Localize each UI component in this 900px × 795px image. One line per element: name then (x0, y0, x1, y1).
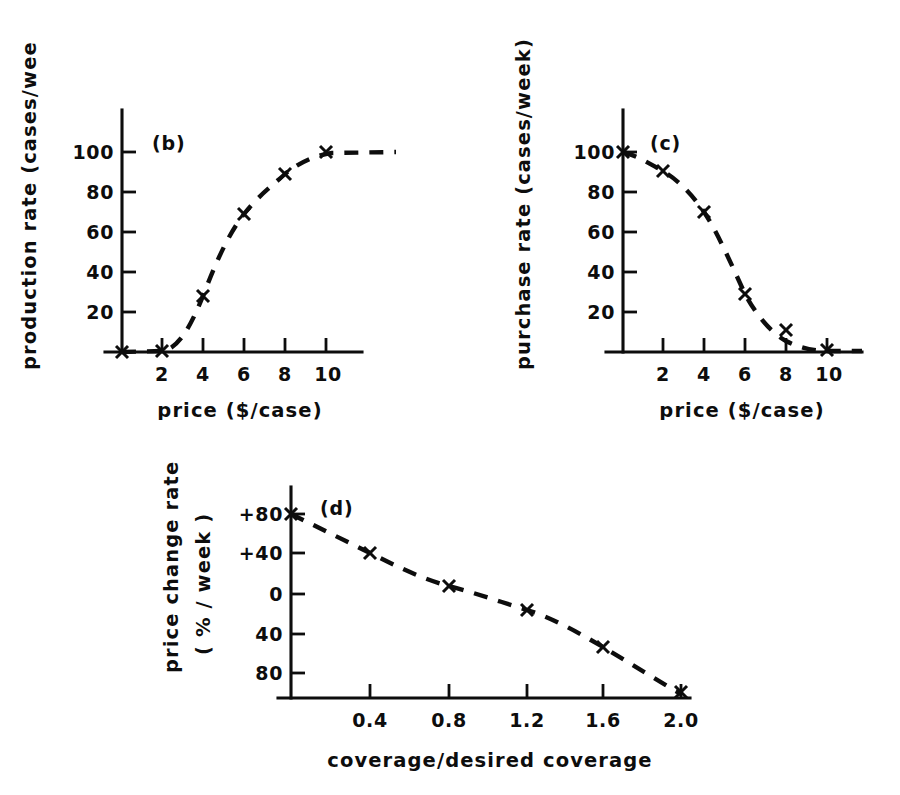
panel-c-y-axis-title: purchase rate (cases/week) (512, 40, 535, 370)
panel-c-ytick-40: 40 (587, 261, 615, 283)
panel-b-y-axis-title: production rate (cases/week) (18, 40, 41, 370)
panel-b-data-curve (122, 152, 396, 352)
panel-d-ytick-plus80: +80 (239, 503, 283, 525)
panel-d-x-axis-title: coverage/desired coverage (327, 749, 652, 772)
panel-b-label: (b) (152, 132, 185, 154)
panel-d-ytick-plus40: +40 (239, 542, 283, 564)
marker-point (279, 168, 291, 180)
panel-c-x-axis-title: price ($/case) (659, 399, 824, 420)
panel-b-xtick-8: 8 (278, 363, 292, 385)
chart-panel-b: production rate (cases/week) (b) 100 80 … (0, 40, 440, 420)
chart-panel-c: purchase rate (cases/week) (c) 100 80 60… (450, 40, 900, 420)
panel-c-label: (c) (650, 132, 681, 154)
panel-b-xtick-10: 10 (314, 363, 342, 385)
panel-b-ytick-60: 60 (86, 221, 114, 243)
panel-d-ytick-0: 0 (269, 583, 283, 605)
panel-c-xtick-6: 6 (738, 363, 752, 385)
panel-d-data-curve (291, 514, 681, 694)
marker-point (238, 208, 250, 220)
panel-c-xtick-4: 4 (697, 363, 711, 385)
panel-b-xtick-2: 2 (155, 363, 169, 385)
panel-c-ytick-80: 80 (587, 181, 615, 203)
panel-d-xtick-12: 1.2 (509, 709, 544, 731)
panel-c-x-ticks (663, 338, 827, 352)
panel-d-xtick-20: 2.0 (663, 709, 698, 731)
panel-d-y-ticks (291, 514, 305, 673)
figure-root: production rate (cases/week) (b) 100 80 … (0, 0, 900, 795)
panel-d-ytick-neg80: 80 (255, 662, 283, 684)
panel-d-xtick-08: 0.8 (431, 709, 466, 731)
panel-c-ytick-100: 100 (574, 141, 615, 163)
panel-b-ytick-20: 20 (86, 301, 114, 323)
panel-d-y-axis-title-line1: price change rate (160, 461, 183, 673)
panel-d-y-axis-title-line2: ( % / week ) (192, 513, 215, 655)
panel-b-ytick-80: 80 (86, 181, 114, 203)
marker-point (739, 288, 751, 300)
panel-b-x-ticks (162, 338, 326, 352)
marker-point (780, 324, 792, 336)
panel-d-xtick-04: 0.4 (352, 709, 387, 731)
panel-c-xtick-10: 10 (815, 363, 843, 385)
panel-d-ytick-neg40: 40 (255, 623, 283, 645)
panel-c-y-ticks (623, 152, 637, 312)
panel-c-xtick-8: 8 (779, 363, 793, 385)
marker-point (657, 165, 669, 177)
panel-c-ytick-60: 60 (587, 221, 615, 243)
panel-c-xtick-2: 2 (656, 363, 670, 385)
panel-b-y-ticks (122, 152, 136, 312)
chart-panel-d: price change rate ( % / week ) (d) +80 +… (130, 455, 770, 795)
panel-d-label: (d) (320, 497, 353, 519)
panel-b-ytick-100: 100 (73, 141, 114, 163)
panel-d-xtick-16: 1.6 (585, 709, 620, 731)
panel-b-xtick-4: 4 (196, 363, 210, 385)
panel-c-data-curve (623, 152, 862, 351)
panel-b-x-axis-title: price ($/case) (157, 399, 322, 420)
panel-b-xtick-6: 6 (237, 363, 251, 385)
marker-point (698, 206, 710, 218)
panel-b-ytick-40: 40 (86, 261, 114, 283)
panel-c-ytick-20: 20 (587, 301, 615, 323)
panel-d-data-markers (285, 508, 687, 698)
panel-b-data-markers (116, 146, 332, 358)
panel-c-data-markers (617, 146, 833, 356)
panel-d-x-ticks (370, 684, 681, 698)
